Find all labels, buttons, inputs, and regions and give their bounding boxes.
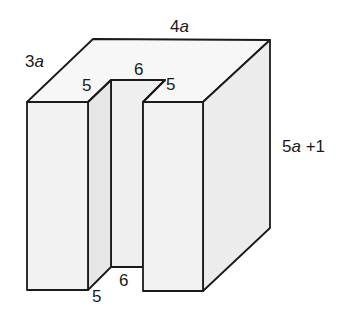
label-height: 5a +1: [282, 138, 325, 155]
label-depth: 3a: [25, 53, 44, 70]
label-slot-bottom-width: 6: [119, 272, 128, 289]
label-slot-top-right-depth: 5: [166, 76, 175, 93]
solid-drawing: [0, 0, 352, 315]
left-front-column: [27, 102, 88, 290]
label-slot-top-width: 6: [134, 61, 143, 78]
slot-left-side-wall: [88, 80, 111, 290]
label-slot-bottom-depth: 5: [92, 288, 101, 305]
label-width: 4a: [170, 18, 189, 35]
right-front-column: [143, 102, 203, 291]
label-slot-top-left-depth: 5: [82, 77, 91, 94]
solid-figure-diagram: 3a 4a 5a +1 5 6 5 6 5: [0, 0, 352, 315]
